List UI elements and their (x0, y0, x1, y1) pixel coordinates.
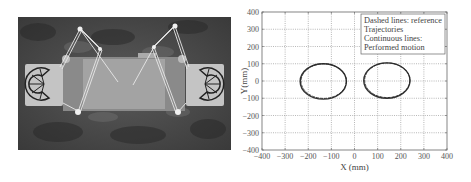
x-tick-label: 400 (441, 152, 453, 161)
y-tick-label: 400 (247, 8, 259, 17)
x-axis-label: X (mm) (340, 162, 369, 172)
y-tick-label: −400 (242, 146, 259, 155)
x-tick-label: −200 (300, 152, 317, 161)
x-tick-label: 100 (372, 152, 384, 161)
legend-line-2: Trajectories (364, 25, 403, 34)
trajectory-chart: −400−300−200−1000100200300400 4003002001… (0, 0, 471, 182)
legend-line-3: Continuous lines: (364, 34, 422, 43)
x-tick-label: −300 (277, 152, 294, 161)
y-tick-label: −300 (242, 129, 259, 138)
y-tick-label: −100 (242, 94, 259, 103)
y-tick-label: 0 (255, 77, 259, 86)
legend-line-1: Dashed lines: reference (364, 16, 442, 25)
x-tick-label: 200 (395, 152, 407, 161)
x-tick-label: 300 (418, 152, 430, 161)
x-tick-label: −100 (323, 152, 340, 161)
y-tick-label: 100 (247, 60, 259, 69)
x-tick-labels: −400−300−200−1000100200300400 (254, 152, 453, 161)
y-tick-label: 300 (247, 25, 259, 34)
x-tick-label: 0 (353, 152, 357, 161)
y-axis-label: Y(mm) (239, 68, 249, 95)
legend-line-4: Performed motion (364, 43, 425, 52)
y-tick-label: 200 (247, 43, 259, 52)
y-tick-label: −200 (242, 112, 259, 121)
legend: Dashed lines: reference Trajectories Con… (361, 14, 445, 54)
